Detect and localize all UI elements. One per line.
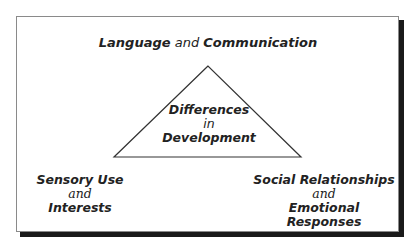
bottom-right-line2: and — [250, 187, 398, 201]
bottom-left-label: Sensory Use and Interests — [28, 173, 132, 215]
top-label: Language and Communication — [60, 36, 356, 50]
center-line3: Development — [148, 131, 270, 145]
bottom-left-line1: Sensory Use — [28, 173, 132, 187]
bottom-right-line3: Emotional Responses — [250, 201, 398, 229]
bottom-left-line3: Interests — [28, 201, 132, 215]
center-label: Differences in Development — [148, 103, 270, 145]
bottom-right-label: Social Relationships and Emotional Respo… — [250, 173, 398, 229]
bottom-left-line2: and — [28, 187, 132, 201]
top-label-part1: Language — [99, 35, 171, 50]
bottom-right-line1: Social Relationships — [250, 173, 398, 187]
top-label-part2: Communication — [203, 35, 317, 50]
center-line1: Differences — [148, 103, 270, 117]
center-line2: in — [148, 117, 270, 131]
top-label-connector: and — [175, 35, 199, 50]
